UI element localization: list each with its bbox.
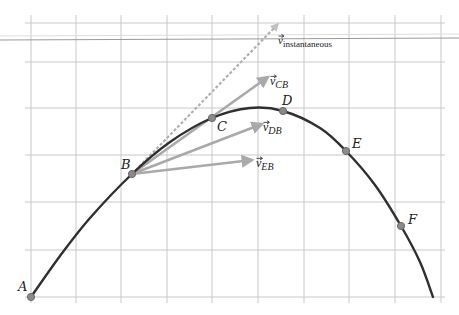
vector-label-eb: vEB	[256, 156, 274, 172]
point-label-b: B	[120, 157, 131, 172]
trajectory-diagram: ABCDEFvCBvDBvEBvinstantaneous	[0, 0, 459, 315]
vector-label-cb: vCB	[270, 74, 288, 90]
point-a	[27, 293, 34, 300]
vector-label-instantaneous: vinstantaneous	[278, 34, 332, 49]
point-label-e: E	[351, 136, 362, 151]
vector-label-db: vDB	[263, 120, 282, 136]
instantaneous-velocity-arrow	[132, 24, 278, 174]
reference-line	[0, 38, 459, 40]
trajectory-points	[27, 107, 404, 300]
point-c	[208, 114, 215, 121]
grid	[0, 15, 459, 303]
point-label-a: A	[17, 279, 27, 294]
point-d	[279, 107, 286, 114]
svg-text:vinstantaneous: vinstantaneous	[278, 34, 332, 49]
point-label-d: D	[281, 93, 293, 108]
reference-line-faint	[0, 34, 459, 36]
point-label-f: F	[407, 212, 418, 227]
point-e	[342, 147, 349, 154]
velocity-vectors	[132, 24, 278, 174]
point-f	[397, 222, 404, 229]
point-label-c: C	[217, 119, 227, 134]
